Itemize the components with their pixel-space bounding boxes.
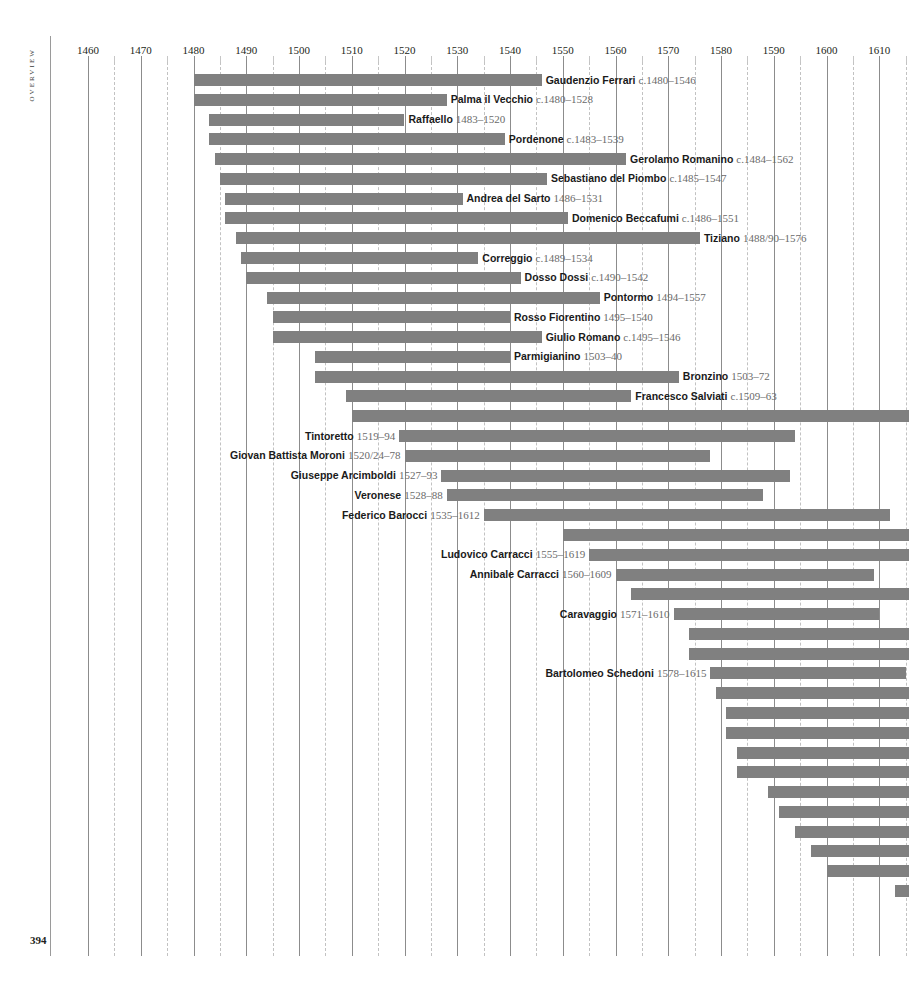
timeline-row-label: Annibale Carracci1560–1609 (470, 568, 616, 580)
timeline-row-label: Francesco Salviatic.1509–63 (631, 390, 776, 402)
timeline-bar[interactable] (779, 806, 909, 818)
timeline-bar[interactable] (616, 569, 874, 581)
timeline-bar[interactable] (246, 272, 520, 284)
timeline-bar[interactable] (194, 74, 542, 86)
timeline-bar[interactable] (209, 114, 404, 126)
timeline-bar[interactable] (737, 747, 909, 759)
axis-tick-label: 1490 (235, 44, 257, 56)
timeline-bar[interactable] (399, 430, 795, 442)
timeline-bar[interactable] (827, 865, 909, 877)
timeline-bar[interactable] (689, 628, 909, 640)
gridline-major (141, 62, 142, 956)
timeline-bar[interactable] (241, 252, 478, 264)
timeline-bar[interactable] (273, 311, 510, 323)
timeline-row-label: Pontormo1494–1557 (600, 291, 706, 303)
axis-tick-major (774, 56, 775, 62)
timeline-bar[interactable] (225, 212, 568, 224)
timeline-row-label: Tiziano1488/90–1576 (700, 232, 807, 244)
axis-tick-major (563, 56, 564, 62)
artist-name: Giovan Battista Moroni (230, 449, 345, 461)
axis-tick-minor (378, 56, 379, 62)
timeline-row-label: Ludovico Carracci1555–1619 (441, 548, 589, 560)
artist-dates: 1535–1612 (427, 509, 480, 521)
artist-dates: c.1486–1551 (679, 212, 739, 224)
axis-tick-major (352, 56, 353, 62)
axis-tick-major (827, 56, 828, 62)
axis-tick-minor (220, 56, 221, 62)
timeline-bar[interactable] (726, 727, 909, 739)
timeline-bar[interactable] (674, 608, 880, 620)
artist-name: Caravaggio (560, 608, 617, 620)
timeline-row-label: Veronese1528–88 (354, 489, 446, 501)
artist-dates: c.1495–1546 (620, 331, 680, 343)
timeline-bar[interactable] (220, 173, 547, 185)
gridline-major (88, 62, 89, 956)
timeline-bar[interactable] (267, 292, 599, 304)
timeline-bar[interactable] (811, 845, 909, 857)
axis-tick-major (616, 56, 617, 62)
artist-dates: 1483–1520 (453, 113, 506, 125)
timeline-bar[interactable] (563, 529, 909, 541)
axis-tick-label: 1500 (288, 44, 310, 56)
artist-dates: 1555–1619 (533, 548, 586, 560)
gridline-minor (220, 62, 221, 956)
artist-dates: 1571–1610 (617, 608, 670, 620)
timeline-bar[interactable] (726, 707, 909, 719)
artist-dates: 1528–88 (401, 489, 443, 501)
timeline-bar[interactable] (236, 232, 700, 244)
timeline-row-label: Raffaello1483–1520 (405, 113, 506, 125)
artist-dates: 1520/24–78 (345, 449, 401, 461)
timeline-row-label: Palma il Vecchioc.1480–1528 (447, 93, 593, 105)
timeline-bar[interactable] (795, 826, 909, 838)
timeline-bar[interactable] (737, 766, 909, 778)
axis-tick-minor (431, 56, 432, 62)
timeline-bar[interactable] (631, 588, 909, 600)
timeline-bar[interactable] (273, 331, 542, 343)
timeline-bar[interactable] (710, 667, 905, 679)
axis-tick-major (721, 56, 722, 62)
timeline-bar[interactable] (895, 885, 909, 897)
axis-tick-label: 1600 (816, 44, 838, 56)
timeline-bar[interactable] (194, 94, 447, 106)
timeline-bar[interactable] (441, 470, 789, 482)
axis-tick-label: 1570 (657, 44, 679, 56)
timeline-bar[interactable] (716, 687, 909, 699)
timeline-row-label: Pordenonec.1483–1539 (505, 133, 624, 145)
timeline-row-label: Rosso Fiorentino1495–1540 (510, 311, 653, 323)
axis-tick-minor (167, 56, 168, 62)
axis-tick-minor (536, 56, 537, 62)
timeline-bar[interactable] (689, 648, 909, 660)
timeline-bar[interactable] (405, 450, 711, 462)
timeline-bar[interactable] (768, 786, 909, 798)
axis-tick-label: 1470 (130, 44, 152, 56)
artist-dates: c.1484–1562 (733, 153, 793, 165)
timeline-bar[interactable] (315, 351, 510, 363)
artist-name: Correggio (482, 252, 532, 264)
timeline-bar[interactable] (225, 193, 462, 205)
timeline-bar[interactable] (346, 390, 631, 402)
timeline-bar[interactable] (589, 549, 909, 561)
timeline-row-label: Dosso Dossic.1490–1542 (521, 271, 649, 283)
artist-dates: 1560–1609 (559, 568, 612, 580)
axis-tick-minor (589, 56, 590, 62)
timeline-row-label: Giovan Battista Moroni1520/24–78 (230, 449, 405, 461)
timeline-bar[interactable] (447, 489, 764, 501)
timeline-bar[interactable] (315, 371, 679, 383)
timeline-bar[interactable] (484, 509, 890, 521)
gridline-minor (114, 62, 115, 956)
timeline-bar[interactable] (215, 153, 626, 165)
artist-dates: 1488/90–1576 (740, 232, 807, 244)
artist-name: Annibale Carracci (470, 568, 559, 580)
axis-tick-label: 1550 (552, 44, 574, 56)
axis-tick-major (194, 56, 195, 62)
timeline-bar[interactable] (352, 410, 909, 422)
timeline-bar[interactable] (209, 133, 504, 145)
axis-tick-minor (273, 56, 274, 62)
timeline-page: Overview 394 146014701480149015001510152… (0, 0, 909, 1008)
axis-tick-major (879, 56, 880, 62)
axis-tick-label: 1460 (77, 44, 99, 56)
gridline-minor (906, 62, 907, 956)
artist-name: Giuseppe Arcimboldi (291, 469, 396, 481)
artist-name: Rosso Fiorentino (514, 311, 600, 323)
axis-tick-major (88, 56, 89, 62)
